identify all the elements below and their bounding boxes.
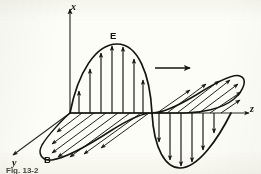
e-vectors-up: [79, 46, 143, 113]
z-axis-label: z: [250, 104, 254, 114]
e-vectors-down: [159, 113, 214, 166]
electric-field-label: E: [110, 31, 116, 41]
y-axis-line: [13, 113, 70, 155]
b-field-back-lobe: [152, 75, 244, 113]
e-field-curve-group: [70, 44, 231, 168]
b-vectors-front: [52, 113, 149, 157]
figure-caption: Fig. 13-2: [6, 167, 38, 174]
magnetic-field-label: B: [44, 155, 51, 165]
x-axis-label: x: [71, 2, 76, 12]
b-field-front-lobe: [40, 113, 152, 160]
em-wave-figure: [0, 0, 261, 174]
e-field-sine-curve: [70, 44, 231, 168]
axis-group: [13, 9, 249, 155]
